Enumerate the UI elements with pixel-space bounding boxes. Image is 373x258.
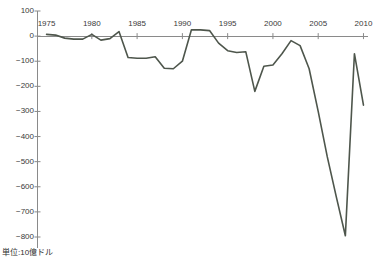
x-axis-tick-label: 1990: [162, 19, 202, 28]
x-axis-tick-label: 2000: [253, 19, 293, 28]
axes-group: [35, 11, 369, 248]
y-axis-tick-label: −600: [0, 182, 34, 191]
chart-container: 1000−100−200−300−400−500−600−700−800 197…: [0, 0, 373, 258]
line-chart-plot: [0, 0, 373, 258]
x-axis-tick-label: 2010: [343, 19, 373, 28]
x-axis-tick-label: 2005: [298, 19, 338, 28]
y-axis-tick-label: −300: [0, 106, 34, 115]
y-axis-tick-label: −100: [0, 56, 34, 65]
y-axis-tick-label: −800: [0, 232, 34, 241]
unit-note-label: 単位:10億ドル: [2, 246, 53, 257]
y-axis-tick-label: 100: [0, 6, 34, 15]
data-series-line: [47, 30, 364, 236]
x-axis-tick-label: 1980: [72, 19, 112, 28]
y-axis-tick-label: −200: [0, 81, 34, 90]
x-axis-tick-label: 1995: [208, 19, 248, 28]
y-axis-tick-label: −500: [0, 157, 34, 166]
y-axis-tick-label: 0: [0, 31, 34, 40]
y-axis-tick-label: −400: [0, 132, 34, 141]
y-axis-tick-label: −700: [0, 207, 34, 216]
x-axis-tick-label: 1975: [27, 19, 67, 28]
x-axis-tick-label: 1985: [117, 19, 157, 28]
